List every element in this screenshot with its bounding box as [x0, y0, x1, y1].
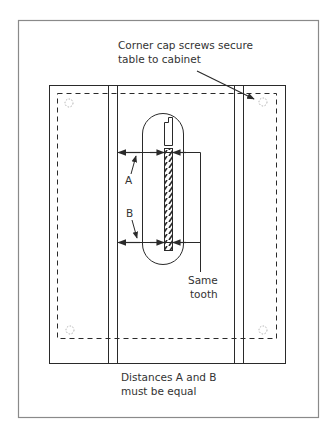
saw-blade [165, 149, 173, 251]
dimension-a-label: A [125, 174, 133, 186]
corner-cap-screw-tr [259, 98, 267, 106]
miter-slot-right [235, 86, 244, 364]
same-tooth-label-line2: tooth [190, 288, 218, 300]
blade-alignment-diagram: Corner cap screws secure table to cabine… [0, 0, 331, 433]
corner-cap-screw-bl [66, 326, 74, 334]
throat-plate [143, 114, 184, 265]
corner-cap-label-line2: table to cabinet [118, 53, 201, 65]
miter-slot-left [109, 86, 118, 364]
corner-cap-screw-br [259, 326, 267, 334]
dimension-b-label: B [126, 207, 133, 219]
caption-line1: Distances A and B [121, 371, 217, 383]
corner-cap-label-line1: Corner cap screws secure [118, 39, 253, 51]
corner-cap-screw-tl [65, 99, 73, 107]
caption-line2: must be equal [121, 385, 196, 397]
same-tooth-label-line1: Same [188, 274, 218, 286]
